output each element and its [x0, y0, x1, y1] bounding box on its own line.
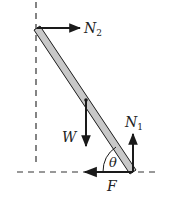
weight-label: W [62, 129, 78, 145]
angle-label: θ [109, 155, 117, 170]
friction-label: F [106, 178, 118, 194]
n2-label: N2 [83, 20, 102, 38]
center-of-mass-dot [84, 98, 88, 102]
n1-label: N1 [124, 114, 143, 132]
free-body-diagram: N2 W N1 F θ [0, 0, 181, 198]
